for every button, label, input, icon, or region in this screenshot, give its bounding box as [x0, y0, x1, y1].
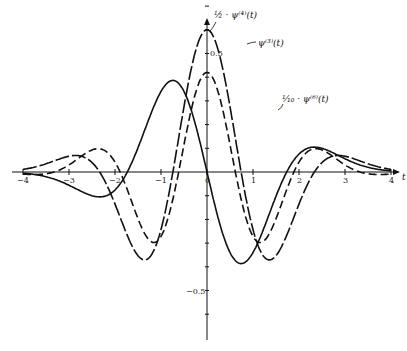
leader-psi3 — [247, 42, 256, 44]
axes: −4−3−2−101234 — [12, 6, 400, 340]
xtick-label: 1 — [251, 176, 256, 185]
ytick-0.5: 0.5 — [210, 49, 223, 58]
label-psi3: ψ⁽³⁾(t) — [258, 38, 284, 48]
xtick-label: 4 — [389, 176, 394, 185]
y-axis-arrow-icon — [204, 18, 210, 25]
leader-psi4 — [210, 22, 216, 31]
xtick-label: 2 — [297, 176, 302, 185]
xtick-label: −2 — [109, 176, 121, 185]
ytick-neg0.5: −0.5 — [186, 287, 205, 296]
label-psi4: ½ · ψ⁽⁴⁾(t) — [214, 10, 258, 20]
xtick-label: −4 — [17, 176, 29, 185]
xtick-label: 3 — [343, 176, 348, 185]
label-psi6: ¹⁄₁₀ · ψ⁽⁶⁾(t) — [282, 94, 329, 104]
x-axis-arrow-icon — [393, 169, 400, 175]
leader-psi6 — [278, 104, 283, 110]
xtick-label: −1 — [155, 176, 167, 185]
x-axis-label: t — [402, 172, 406, 182]
chart: −4−3−2−101234 0.5 −0.5 t ½ · ψ⁽⁴⁾(t) ψ⁽³… — [0, 0, 407, 351]
